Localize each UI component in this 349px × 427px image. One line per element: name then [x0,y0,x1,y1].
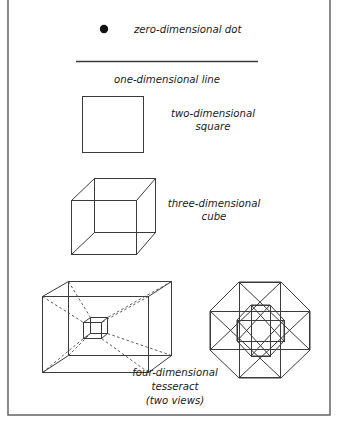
one-dimensional-row: one-dimensional line [76,62,258,86]
cube-glyph [72,179,156,255]
four-dimensional-caption: four-dimensional tesseract (two views) [132,367,218,406]
square-glyph [83,97,144,153]
one-dimensional-caption: one-dimensional line [114,74,220,85]
two-dimensional-caption-line-1: two-dimensional [171,108,255,119]
two-dimensional-caption-line-2: square [196,121,231,132]
three-dimensional-row: three-dimensional cube [72,179,261,255]
tesseract-inner-cube [84,318,108,339]
zero-dimensional-caption: zero-dimensional dot [133,24,242,35]
three-dimensional-caption-line-2: cube [202,211,227,222]
tesseract-octagon-view [210,282,310,378]
two-dimensional-row: two-dimensional square [83,97,256,153]
three-dimensional-caption-line-1: three-dimensional [168,198,261,209]
zero-dimensional-row: zero-dimensional dot [100,24,243,35]
four-dimensional-caption-line-3: (two views) [146,395,205,406]
figure-panel: zero-dimensional dot one-dimensional lin… [0,0,349,427]
tesseract-nested-view [43,282,172,373]
four-dimensional-caption-line-1: four-dimensional [132,367,218,378]
four-dimensional-caption-line-2: tesseract [151,381,199,392]
point-glyph [100,25,108,33]
dimensions-diagram: zero-dimensional dot one-dimensional lin… [0,0,349,427]
